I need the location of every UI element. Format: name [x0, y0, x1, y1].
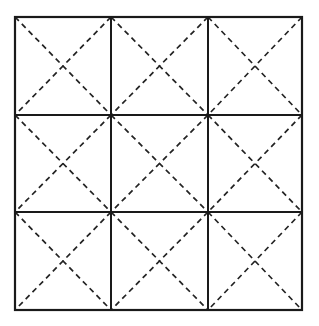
- figure-root: [0, 0, 319, 326]
- grid-diagram-svg: [0, 0, 319, 326]
